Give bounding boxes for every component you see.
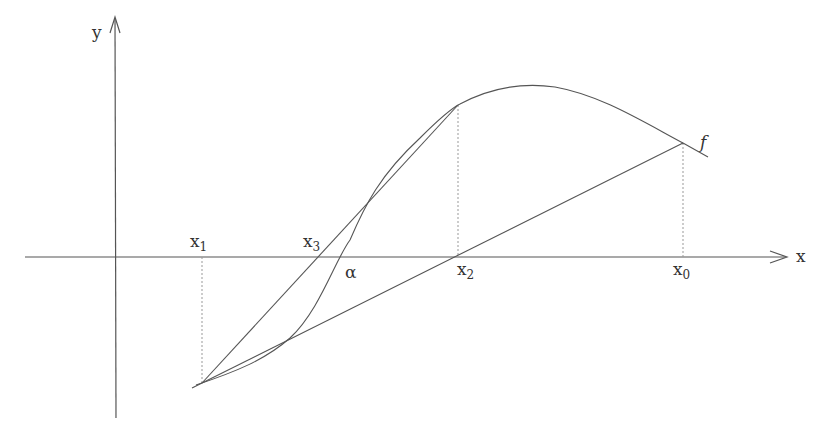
function-curve <box>196 85 708 385</box>
label-x3: x3 <box>303 231 320 254</box>
y-axis: y <box>91 17 120 418</box>
x-axis-label: x <box>796 246 806 266</box>
label-x0: x0 <box>673 259 690 282</box>
svg-text:x2: x2 <box>457 259 474 282</box>
svg-text:x1: x1 <box>190 231 207 254</box>
secant-method-diagram: x y f α x1 x3 x2 x0 <box>0 0 821 434</box>
svg-text:x0: x0 <box>673 259 690 282</box>
function-label: f <box>698 132 709 152</box>
label-x1: x1 <box>190 231 207 254</box>
secant-x1-x0 <box>192 143 683 388</box>
svg-text:x3: x3 <box>303 231 320 254</box>
y-axis-label: y <box>91 22 102 42</box>
root-label-alpha: α <box>345 262 357 282</box>
dotted-guides <box>202 105 683 383</box>
x-axis: x <box>25 246 806 266</box>
secant-x1-x2 <box>202 105 458 383</box>
label-x2: x2 <box>457 259 474 282</box>
